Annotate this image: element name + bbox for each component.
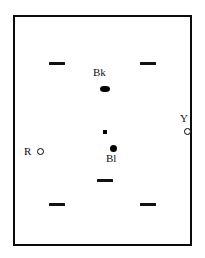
marker-r-stone — [37, 148, 44, 155]
field-diagram: Bk Y Bl R — [0, 0, 205, 258]
dash-marker-bottom-left — [49, 203, 65, 206]
marker-y-stone — [184, 128, 191, 135]
center-point-marker — [103, 130, 107, 134]
dash-marker-bottom-right — [140, 203, 156, 206]
dash-marker-top-left — [49, 62, 65, 65]
marker-label-bk: Bk — [93, 67, 106, 78]
dash-marker-top-right — [140, 62, 156, 65]
marker-bk-stone — [100, 86, 110, 92]
dash-marker-mid-center — [97, 179, 113, 182]
marker-label-y: Y — [180, 113, 188, 124]
marker-label-r: R — [24, 146, 31, 157]
marker-bl-stone — [110, 145, 117, 152]
marker-label-bl: Bl — [106, 153, 116, 164]
